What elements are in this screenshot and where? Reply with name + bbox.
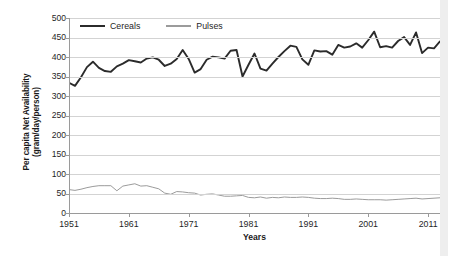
legend-line-pulses-icon xyxy=(166,25,191,26)
legend-label-cereals: Cereals xyxy=(110,21,140,31)
x-tick-1951: 1951 xyxy=(46,219,92,229)
legend-label-pulses: Pulses xyxy=(196,21,222,31)
gridline-50 xyxy=(69,194,440,195)
gridline-400 xyxy=(69,57,440,58)
x-tickmark xyxy=(428,213,429,217)
gridline-350 xyxy=(69,77,440,78)
gridline-150 xyxy=(69,155,440,156)
gridline-250 xyxy=(69,116,440,117)
gridline-300 xyxy=(69,96,440,97)
y-axis-tick-labels: 500 450 400 350 300 250 200 150 100 50 0 xyxy=(36,0,66,256)
y-axis-title-line1: Per capita Net Availability xyxy=(22,74,32,171)
legend-entry-pulses: Pulses xyxy=(166,21,222,31)
x-tick-1991: 1991 xyxy=(285,219,331,229)
x-tick-1971: 1971 xyxy=(166,219,212,229)
legend-line-cereals-icon xyxy=(80,25,105,27)
gridline-200 xyxy=(69,135,440,136)
scan-artifact-band xyxy=(440,0,448,256)
chart-figure: Per capita Net Availability (gram/day/pe… xyxy=(0,0,457,256)
y-tick-100: 100 xyxy=(38,170,66,179)
y-tick-400: 400 xyxy=(38,53,66,62)
plot-area xyxy=(69,18,440,213)
page-right-margin xyxy=(448,0,457,256)
x-tick-1961: 1961 xyxy=(106,219,152,229)
y-tick-300: 300 xyxy=(38,92,66,101)
gridline-100 xyxy=(69,174,440,175)
x-tickmark xyxy=(308,213,309,217)
cereals-line xyxy=(69,32,440,86)
y-axis-line xyxy=(69,18,70,214)
legend-entry-cereals: Cereals xyxy=(80,21,140,31)
y-tick-250: 250 xyxy=(38,111,66,120)
y-tick-150: 150 xyxy=(38,150,66,159)
x-tickmark xyxy=(69,213,70,217)
x-tick-1981: 1981 xyxy=(226,219,272,229)
x-tickmark xyxy=(368,213,369,217)
x-tickmark xyxy=(249,213,250,217)
y-tick-450: 450 xyxy=(38,33,66,42)
chart-legend: Cereals Pulses xyxy=(80,21,223,31)
gridline-450 xyxy=(69,38,440,39)
x-tick-2001: 2001 xyxy=(345,219,391,229)
gridline-500 xyxy=(69,18,440,19)
y-tick-50: 50 xyxy=(38,189,66,198)
y-tick-500: 500 xyxy=(38,14,66,23)
x-axis-title: Years xyxy=(69,232,440,242)
y-tick-0: 0 xyxy=(38,209,66,218)
y-tick-350: 350 xyxy=(38,72,66,81)
x-tickmark xyxy=(129,213,130,217)
pulses-line xyxy=(69,184,440,200)
x-axis-line xyxy=(69,213,440,214)
y-tick-200: 200 xyxy=(38,131,66,140)
x-tickmark xyxy=(189,213,190,217)
